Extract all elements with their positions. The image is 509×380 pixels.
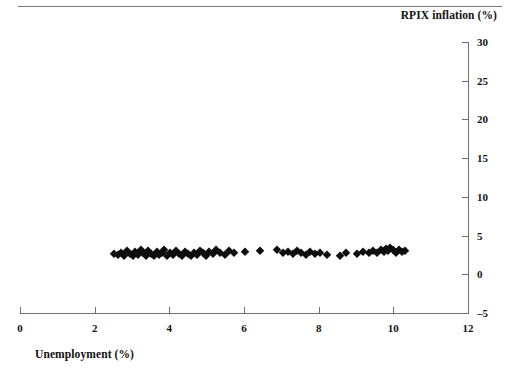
y-axis-tick-label: –5 [477, 307, 488, 319]
y-axis-tick [462, 119, 469, 120]
y-axis-tick [462, 197, 469, 198]
x-axis-tick [169, 307, 170, 313]
x-axis-tick-label: 6 [241, 322, 247, 334]
x-axis-tick [95, 307, 96, 313]
y-axis-tick-label: 15 [477, 152, 488, 164]
x-axis-line [20, 313, 469, 314]
x-axis-tick [393, 307, 394, 313]
data-point-marker [230, 248, 239, 257]
x-axis-tick-label: 8 [316, 322, 322, 334]
x-axis-tick-label: 4 [167, 322, 173, 334]
plot-area [0, 0, 509, 380]
x-axis-tick [319, 307, 320, 313]
y-axis-tick [462, 274, 469, 275]
x-axis-tick-label: 10 [388, 322, 399, 334]
x-axis-tick [244, 307, 245, 313]
y-axis-tick-label: 5 [477, 230, 483, 242]
y-axis-tick [462, 81, 469, 82]
data-point-marker [255, 247, 264, 256]
x-axis-tick-label: 12 [463, 322, 474, 334]
y-axis-tick-label: 25 [477, 75, 488, 87]
y-axis-tick [462, 313, 469, 314]
y-axis-tick [462, 158, 469, 159]
data-point-marker [240, 247, 249, 256]
y-axis-tick-label: 0 [477, 268, 483, 280]
y-axis-tick-label: 10 [477, 191, 488, 203]
y-axis-tick-label: 20 [477, 113, 488, 125]
y-axis-line [468, 42, 469, 314]
x-axis-tick-label: 0 [17, 322, 23, 334]
x-axis-tick [20, 307, 21, 313]
y-axis-tick [462, 42, 469, 43]
x-axis-tick-label: 2 [92, 322, 98, 334]
y-axis-tick [462, 236, 469, 237]
scatter-chart-figure: RPIX inflation (%) Unemployment (%) 0246… [0, 0, 509, 380]
y-axis-tick-label: 30 [477, 36, 488, 48]
